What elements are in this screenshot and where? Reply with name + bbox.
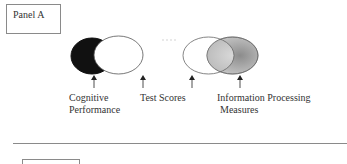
label-performance: Performance <box>69 104 120 116</box>
right-venn <box>183 37 258 74</box>
arrow-test-scores-right-icon <box>189 75 195 88</box>
left-venn <box>71 36 143 74</box>
label-information-processing: Information Processing <box>217 92 311 104</box>
arrow-cognitive-icon <box>91 75 97 88</box>
label-cognitive: Cognitive <box>69 92 108 104</box>
label-measures: Measures <box>220 104 258 116</box>
arrow-test-scores-icon <box>140 75 146 88</box>
section-divider <box>13 143 347 144</box>
test-scores-ellipse-left <box>94 36 143 74</box>
panel-b-box <box>22 159 80 164</box>
label-test-scores: Test Scores <box>140 92 186 104</box>
arrow-info-processing-icon <box>237 75 243 88</box>
venn-diagrams <box>0 0 347 164</box>
